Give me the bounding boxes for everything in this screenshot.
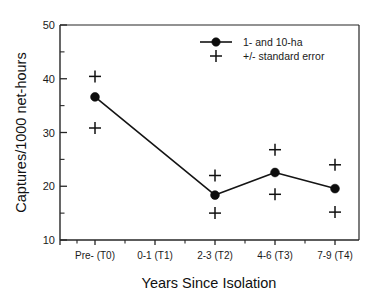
data-point-t3 [271, 168, 280, 177]
x-axis-title: Years Since Isolation [142, 275, 277, 291]
data-point-t0 [91, 93, 100, 102]
x-label-t1: 0-1 (T1) [137, 250, 173, 261]
x-label-t0: Pre- (T0) [75, 250, 115, 261]
legend-dot-swatch [212, 38, 220, 46]
y-tick-label-10: 10 [43, 234, 55, 246]
capture-rate-line-chart: 50 40 30 20 10 Pre- (T0) 0-1 (T1) 2-3 (T… [0, 0, 378, 298]
x-label-t2: 2-3 (T2) [197, 250, 233, 261]
y-tick-label-50: 50 [43, 19, 55, 31]
y-tick-label-40: 40 [43, 73, 55, 85]
x-label-t4: 7-9 (T4) [317, 250, 353, 261]
legend-label-series: 1- and 10-ha [243, 36, 303, 48]
chart-figure: 50 40 30 20 10 Pre- (T0) 0-1 (T1) 2-3 (T… [0, 0, 378, 298]
data-point-t2 [211, 191, 220, 200]
y-tick-label-20: 20 [43, 180, 55, 192]
x-label-t3: 4-6 (T3) [257, 250, 293, 261]
legend-item-series: 1- and 10-ha [200, 36, 303, 48]
data-point-t4 [331, 184, 340, 193]
y-axis-title: Captures/1000 net-hours [13, 52, 29, 212]
y-tick-label-30: 30 [43, 127, 55, 139]
legend-label-error: +/- standard error [243, 50, 325, 62]
